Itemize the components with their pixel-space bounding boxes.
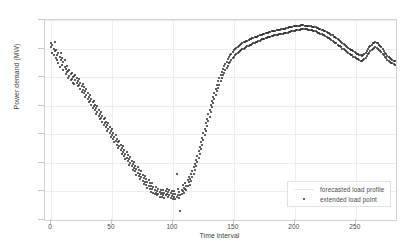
data-point: [215, 94, 217, 96]
data-point: [213, 98, 215, 100]
data-point: [228, 56, 230, 58]
x-tick-mark: [233, 219, 234, 224]
data-point: [100, 117, 102, 119]
data-point: [129, 156, 131, 158]
data-point: [211, 106, 213, 108]
data-point: [182, 184, 184, 186]
data-point: [104, 117, 106, 119]
data-point: [230, 53, 232, 55]
data-point: [70, 73, 72, 75]
y-tick-mark: [38, 190, 44, 191]
data-point: [77, 85, 79, 87]
data-point: [200, 148, 202, 150]
data-point: [217, 87, 219, 89]
data-point: [92, 101, 94, 103]
data-point: [71, 72, 73, 74]
data-point: [218, 84, 220, 86]
x-tick-mark: [172, 219, 173, 224]
data-point: [123, 149, 125, 151]
data-point: [199, 153, 201, 155]
data-point: [117, 141, 119, 143]
x-tick-label: 50: [91, 223, 131, 230]
data-point: [65, 73, 67, 75]
data-point: [144, 175, 146, 177]
data-point: [223, 65, 225, 67]
data-point: [217, 80, 219, 82]
data-point: [198, 157, 200, 159]
data-point: [140, 176, 142, 178]
data-point: [232, 57, 234, 59]
data-point: [212, 96, 214, 98]
data-point: [167, 191, 169, 193]
data-point: [227, 65, 229, 67]
data-point: [99, 118, 101, 120]
data-point: [230, 59, 232, 61]
data-point: [112, 138, 114, 140]
data-point: [156, 190, 158, 192]
data-point: [220, 80, 222, 82]
data-point: [210, 111, 212, 113]
y-tick-mark: [38, 105, 44, 106]
data-point: [394, 60, 396, 62]
y-tick-mark: [38, 48, 44, 49]
data-point: [201, 144, 203, 146]
data-point: [103, 118, 105, 120]
data-point: [56, 54, 58, 56]
data-point: [68, 69, 70, 71]
y-axis-label: Power demand (MW): [13, 12, 20, 142]
data-point: [95, 107, 97, 109]
data-point: [216, 90, 218, 92]
data-point: [200, 141, 202, 143]
data-point: [113, 141, 115, 143]
legend-label: extended load point: [320, 195, 377, 204]
data-point: [191, 176, 193, 178]
data-point: [223, 72, 225, 74]
data-point: [64, 59, 66, 61]
data-point: [133, 161, 135, 163]
y-tick-mark: [38, 133, 44, 134]
data-point: [151, 182, 153, 184]
data-point: [93, 100, 95, 102]
data-point: [60, 52, 62, 54]
y-tick-mark: [38, 19, 44, 20]
data-point: [51, 44, 53, 46]
y-tick-mark: [38, 219, 44, 220]
data-point: [90, 98, 92, 100]
legend-line-sample-icon: [294, 189, 314, 190]
data-point: [187, 185, 189, 187]
data-point: [176, 173, 178, 175]
data-point: [84, 90, 86, 92]
data-point: [179, 210, 181, 212]
data-point: [209, 116, 211, 118]
data-point: [167, 196, 169, 198]
data-point: [61, 57, 63, 59]
data-point: [101, 115, 103, 117]
y-tick-mark: [38, 162, 44, 163]
data-point: [139, 173, 141, 175]
data-point: [137, 166, 139, 168]
data-point: [61, 64, 63, 66]
data-point: [206, 125, 208, 127]
data-point: [123, 155, 125, 157]
data-point: [365, 57, 367, 59]
data-point: [232, 51, 234, 53]
data-point: [117, 147, 119, 149]
data-point: [148, 179, 150, 181]
data-point: [163, 197, 165, 199]
data-point: [62, 61, 64, 63]
data-point: [134, 165, 136, 167]
data-point: [196, 161, 198, 163]
data-point: [178, 197, 180, 199]
data-point: [84, 96, 86, 98]
data-point: [85, 88, 87, 90]
data-point: [59, 66, 61, 68]
x-tick-mark: [294, 219, 295, 224]
data-point: [224, 69, 226, 71]
data-point: [115, 134, 117, 136]
data-point: [73, 83, 75, 85]
x-tick-mark: [50, 219, 51, 224]
data-point: [78, 84, 80, 86]
data-point: [74, 74, 76, 76]
data-point: [185, 189, 187, 191]
data-point: [183, 192, 185, 194]
